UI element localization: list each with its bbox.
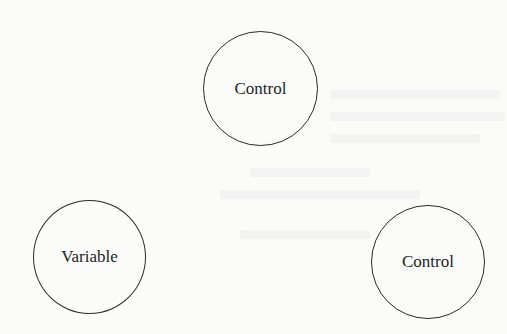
node-label: Control — [235, 79, 287, 99]
control-node-top: Control — [203, 31, 318, 146]
control-node-right: Control — [371, 205, 485, 319]
node-label: Variable — [61, 247, 118, 267]
variable-node: Variable — [33, 200, 146, 314]
node-label: Control — [402, 252, 454, 272]
